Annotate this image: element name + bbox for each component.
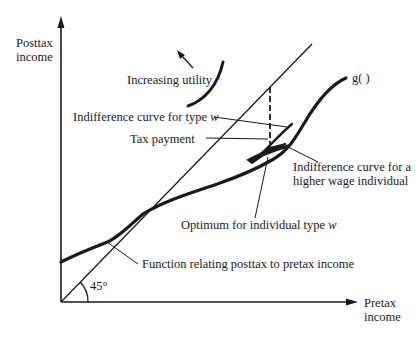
optimum-label: Optimum for individual type w <box>181 218 337 232</box>
leader-tax-payment <box>206 138 268 139</box>
y-axis-label-line2: income <box>16 50 53 64</box>
higher-wage-line2: higher wage individual <box>293 174 411 188</box>
g-curve-label: g( ) <box>352 71 370 85</box>
angle-label: 45° <box>90 279 108 293</box>
indifference-type-w-label: Indifference curve for type w <box>73 110 219 124</box>
y-axis-arrow-icon <box>58 16 65 28</box>
indifference-type-w-text: Indifference curve for type <box>73 110 207 124</box>
tax-payment-label: Tax payment <box>130 132 195 146</box>
higher-wage-line1: Indifference curve for a <box>293 160 411 174</box>
leader-type-w <box>214 117 287 127</box>
x-axis-label: Pretax income <box>364 296 401 324</box>
x-axis-arrow-icon <box>346 299 358 306</box>
function-relating-label: Function relating posttax to pretax inco… <box>142 257 354 271</box>
x-axis-label-line2: income <box>364 310 401 324</box>
increasing-utility-label: Increasing utility <box>127 73 212 87</box>
angle-arc <box>80 282 88 302</box>
optimum-w-variable: w <box>328 218 336 232</box>
optimum-text: Optimum for individual type <box>181 218 325 232</box>
y-axis-label-line1: Posttax <box>16 36 53 50</box>
type-w-variable: w <box>210 110 218 124</box>
x-axis-label-line1: Pretax <box>364 296 401 310</box>
leader-function <box>107 242 138 264</box>
y-axis-label: Posttax income <box>16 36 53 64</box>
increasing-utility-arrow <box>181 55 193 68</box>
indifference-higher-wage-label: Indifference curve for a higher wage ind… <box>293 160 411 188</box>
